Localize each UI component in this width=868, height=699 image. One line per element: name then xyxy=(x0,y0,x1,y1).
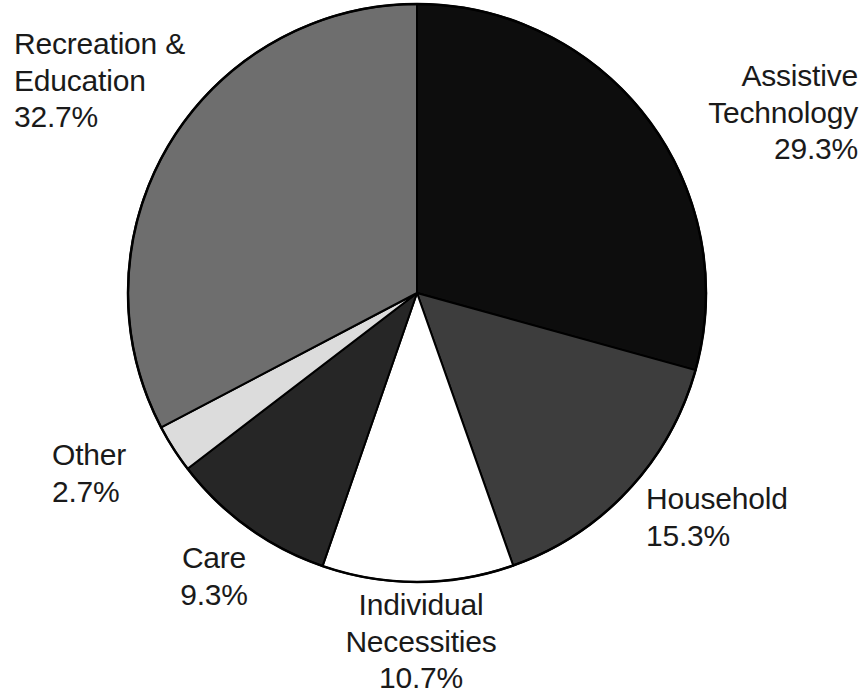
pie-label-recreation-education: Recreation & Education 32.7% xyxy=(14,26,274,136)
pie-chart-figure: Recreation & Education 32.7% Assistive T… xyxy=(0,0,868,699)
pie-label-household: Household 15.3% xyxy=(646,481,866,554)
pie-label-other: Other 2.7% xyxy=(52,437,212,510)
pie-label-assistive-technology: Assistive Technology 29.3% xyxy=(614,58,858,168)
pie-label-care: Care 9.3% xyxy=(141,540,287,613)
pie-label-individual-necessities: Individual Necessities 10.7% xyxy=(296,587,546,697)
